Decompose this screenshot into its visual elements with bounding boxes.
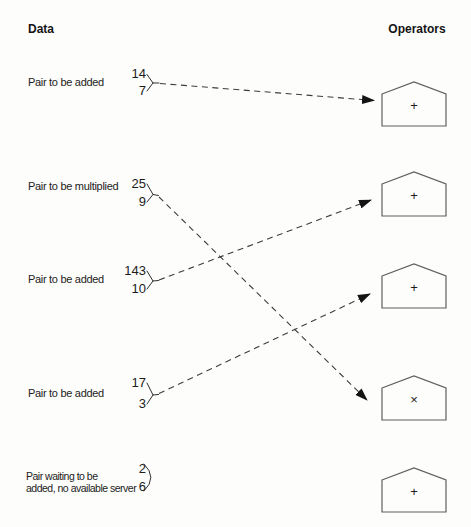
pair-row-3-top-value: 143	[124, 263, 146, 278]
pair-row-1-bottom-value: 7	[139, 83, 146, 98]
operators-column-header: Operators	[388, 22, 446, 36]
pair-row-5-bottom-value: 6	[139, 479, 146, 494]
pair-row-1-label: Pair to be added	[28, 76, 104, 88]
pair-row-3: Pair to be added 143 10	[28, 263, 159, 296]
operator-1: +	[382, 82, 446, 126]
arrow-pair4-to-op3	[159, 294, 370, 394]
arrow-pair1-to-op1	[160, 84, 374, 101]
data-column-header: Data	[28, 22, 54, 36]
pair-row-4-label: Pair to be added	[28, 387, 104, 399]
pair-row-2-brace	[147, 184, 159, 202]
pair-row-3-label: Pair to be added	[28, 273, 104, 285]
pair-row-1: Pair to be added 14 7	[28, 66, 159, 98]
pair-row-3-brace	[147, 271, 159, 289]
operator-1-symbol: +	[410, 98, 418, 113]
pair-row-5-label-line2: added, no available server	[26, 482, 137, 494]
operator-4: ×	[382, 376, 446, 420]
pair-row-4-top-value: 17	[132, 375, 146, 390]
dataflow-diagram: Data Operators Pair to be added 14 7 Pai…	[0, 0, 471, 527]
operator-2-symbol: +	[410, 188, 418, 203]
operator-4-symbol: ×	[410, 392, 418, 407]
pair-row-5-label-line1: Pair waiting to be	[26, 470, 98, 482]
pair-row-2-label: Pair to be multiplied	[28, 180, 118, 192]
diagram-canvas: Data Operators Pair to be added 14 7 Pai…	[0, 0, 471, 527]
pair-row-2-bottom-value: 9	[139, 194, 146, 209]
pair-row-2: Pair to be multiplied 25 9	[28, 176, 159, 209]
operator-3: +	[382, 264, 446, 308]
operator-5-symbol: +	[410, 484, 418, 499]
pair-row-4: Pair to be added 17 3	[28, 375, 159, 411]
operator-3-symbol: +	[410, 280, 418, 295]
pair-row-5-top-value: 2	[139, 461, 146, 476]
arrow-pair2-to-op4	[159, 197, 367, 400]
operator-5: +	[382, 468, 446, 512]
pair-row-2-top-value: 25	[132, 176, 146, 191]
operator-2: +	[382, 172, 446, 216]
pair-row-4-brace	[147, 383, 159, 404]
pair-row-1-top-value: 14	[132, 66, 146, 81]
pair-row-1-brace	[147, 75, 159, 92]
arrow-pair3-to-op2	[159, 200, 371, 280]
pair-row-3-bottom-value: 10	[132, 281, 146, 296]
pair-row-5: Pair waiting to be added, no available s…	[26, 461, 151, 494]
pair-row-4-bottom-value: 3	[139, 396, 146, 411]
